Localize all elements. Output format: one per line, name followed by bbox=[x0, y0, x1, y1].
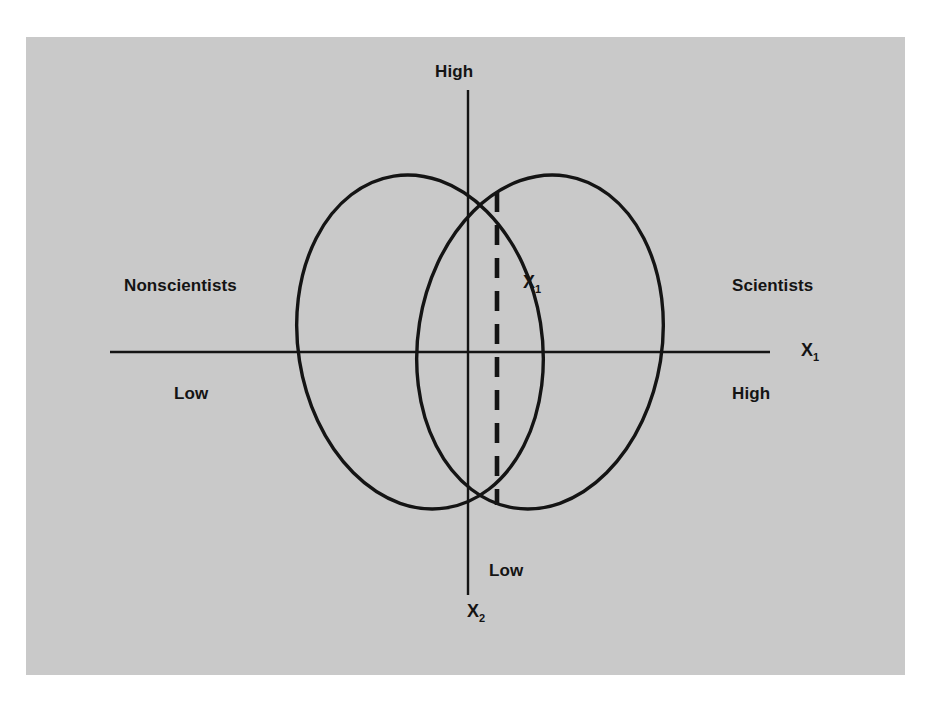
ellipse-scientists bbox=[393, 157, 687, 527]
ellipse-nonscientists bbox=[273, 157, 567, 527]
axis-label-horizontal-high: High bbox=[732, 385, 770, 402]
figure-root: High Nonscientists Scientists Low High X… bbox=[0, 0, 936, 710]
diagram-panel: High Nonscientists Scientists Low High X… bbox=[26, 37, 905, 675]
axis-label-vertical-low: Low bbox=[489, 562, 523, 579]
axis-name-x1: X1 bbox=[801, 341, 819, 363]
axis-name-x2: X2 bbox=[467, 602, 485, 624]
axis-label-horizontal-low: Low bbox=[174, 385, 208, 402]
axis-name-x1-subscript: 1 bbox=[813, 351, 819, 363]
cut-line-label-base: X bbox=[523, 272, 535, 292]
axis-label-vertical-high: High bbox=[435, 63, 473, 80]
diagram-canvas bbox=[26, 37, 905, 675]
group-label-scientists: Scientists bbox=[732, 277, 813, 294]
cut-line-label-x1: X1 bbox=[523, 273, 541, 295]
cut-line-label-subscript: 1 bbox=[535, 283, 541, 295]
axis-name-x2-base: X bbox=[467, 601, 479, 621]
group-label-nonscientists: Nonscientists bbox=[124, 277, 237, 294]
axis-name-x2-subscript: 2 bbox=[479, 612, 485, 624]
axis-name-x1-base: X bbox=[801, 340, 813, 360]
